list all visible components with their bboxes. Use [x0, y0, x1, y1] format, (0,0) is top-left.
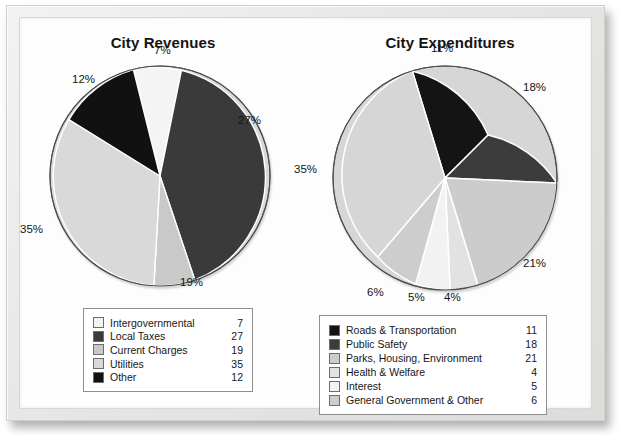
legend-label: Health & Welfare — [346, 366, 513, 378]
legend-label: Intergovernmental — [110, 317, 217, 329]
legend-item[interactable]: Interest 5 — [329, 379, 537, 393]
pct-label-utilities: 35% — [20, 223, 43, 235]
pct-label-current-charges: 19% — [180, 276, 203, 288]
legend-label: General Government & Other — [346, 394, 513, 406]
chart-panel-city-revenues: City Revenues — [20, 18, 306, 410]
legend-swatch-health-welfare — [329, 367, 340, 378]
legend-value: 21 — [513, 352, 537, 364]
legend-swatch-general-government-other — [329, 395, 340, 406]
legend-label: Interest — [346, 380, 513, 392]
pct-label-large-light: 35% — [294, 163, 317, 175]
pie-chart-revenues — [46, 62, 274, 290]
legend-value: 6 — [513, 394, 537, 406]
legend-swatch-other — [93, 372, 104, 383]
pct-label-intergovernmental: 7% — [154, 44, 171, 56]
legend-value: 18 — [513, 338, 537, 350]
legend-swatch-local-taxes — [93, 331, 104, 342]
legend-swatch-interest — [329, 381, 340, 392]
legend-label: Utilities — [110, 358, 217, 370]
pct-label-interest: 5% — [408, 291, 425, 303]
legend-label: Parks, Housing, Environment — [346, 352, 513, 364]
legend-item[interactable]: Utilities 35 — [93, 357, 243, 371]
legend-item[interactable]: Local Taxes 27 — [93, 330, 243, 344]
legend-swatch-utilities — [93, 358, 104, 369]
pct-label-roads-transportation: 11% — [431, 42, 453, 54]
charts-sheet: City Revenues — [20, 18, 593, 410]
legend-item[interactable]: Other 12 — [93, 370, 243, 384]
legend-value: 7 — [217, 317, 243, 329]
legend-swatch-roads-transportation — [329, 325, 340, 336]
legend-label: Current Charges — [110, 344, 217, 356]
pct-label-health-welfare: 4% — [444, 291, 461, 303]
legend-value: 27 — [217, 330, 243, 342]
legend-revenues: Intergovernmental 7 Local Taxes 27 Curre… — [83, 308, 253, 392]
legend-item[interactable]: Roads & Transportation 11 — [329, 323, 537, 337]
legend-item[interactable]: Current Charges 19 — [93, 343, 243, 357]
pct-label-other: 12% — [72, 73, 95, 85]
legend-value: 5 — [513, 380, 537, 392]
legend-value: 35 — [217, 358, 243, 370]
legend-value: 4 — [513, 366, 537, 378]
legend-value: 11 — [513, 324, 537, 336]
page-inner-panel: City Revenues — [19, 17, 592, 409]
legend-label: Roads & Transportation — [346, 324, 513, 336]
legend-item[interactable]: Public Safety 18 — [329, 337, 537, 351]
legend-expenditures: Roads & Transportation 11 Public Safety … — [319, 315, 547, 415]
page-frame: City Revenues — [6, 5, 605, 421]
legend-item[interactable]: General Government & Other 6 — [329, 393, 537, 407]
pct-label-parks-housing-environment: 21% — [523, 257, 546, 269]
legend-swatch-public-safety — [329, 339, 340, 350]
legend-item[interactable]: Parks, Housing, Environment 21 — [329, 351, 537, 365]
legend-value: 19 — [217, 344, 243, 356]
legend-value: 12 — [217, 371, 243, 383]
legend-swatch-parks-housing-environment — [329, 353, 340, 364]
chart-panel-city-expenditures: City Expenditures — [307, 18, 593, 410]
legend-label: Public Safety — [346, 338, 513, 350]
scanned-page: City Revenues — [0, 0, 619, 435]
legend-item[interactable]: Intergovernmental 7 — [93, 316, 243, 330]
pct-label-general-government-other: 6% — [367, 286, 384, 298]
legend-label: Other — [110, 371, 217, 383]
legend-swatch-current-charges — [93, 344, 104, 355]
legend-label: Local Taxes — [110, 330, 217, 342]
legend-swatch-intergovernmental — [93, 317, 104, 328]
pct-label-local-taxes: 27% — [238, 114, 261, 126]
legend-item[interactable]: Health & Welfare 4 — [329, 365, 537, 379]
pct-label-public-safety: 18% — [523, 81, 546, 93]
